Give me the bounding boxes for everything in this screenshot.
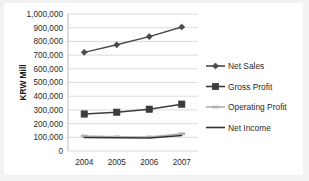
x-tick-label: 2004: [75, 158, 94, 167]
x-axis-tick-labels: 2004200520062007: [75, 158, 191, 167]
series-gross-profit: [81, 101, 185, 117]
y-axis-title: KRW Mill: [18, 64, 28, 100]
y-tick-label: 500,000: [33, 78, 63, 87]
data-point-marker: [179, 101, 185, 107]
legend-label: Net Income: [228, 123, 271, 133]
legend-label: Net Sales: [228, 61, 264, 71]
series-line: [84, 27, 182, 52]
line-chart-svg: 0100,000200,000300,000400,000500,000600,…: [4, 3, 303, 175]
y-tick-label: 600,000: [33, 65, 63, 74]
data-point-marker: [81, 111, 87, 117]
data-point-marker: [146, 34, 152, 40]
y-tick-label: 900,000: [33, 24, 63, 33]
y-axis-title-text: KRW Mill: [18, 64, 28, 100]
x-tick-label: 2006: [140, 158, 159, 167]
legend-item-net-income[interactable]: Net Income: [206, 123, 271, 133]
series-line: [84, 104, 182, 114]
series-net-sales: [81, 24, 185, 56]
legend-item-net-sales[interactable]: Net Sales: [206, 61, 264, 71]
y-tick-label: 100,000: [33, 133, 63, 142]
data-point-marker: [81, 49, 87, 55]
x-tick-label: 2007: [173, 158, 192, 167]
y-tick-label: 300,000: [33, 106, 63, 115]
chart-card: 0100,000200,000300,000400,000500,000600,…: [4, 3, 303, 175]
x-tick-label: 2005: [108, 158, 127, 167]
y-tick-label: 400,000: [33, 92, 63, 101]
data-point-marker: [114, 42, 120, 48]
data-point-marker: [179, 24, 185, 30]
legend-item-gross-profit[interactable]: Gross Profit: [206, 82, 273, 92]
legend: Net SalesGross ProfitOperating ProfitNet…: [206, 61, 287, 133]
data-point-marker: [114, 109, 120, 115]
legend-label: Operating Profit: [228, 102, 287, 112]
y-tick-label: 200,000: [33, 120, 63, 129]
y-tick-label: 800,000: [33, 37, 63, 46]
chart-container: 0100,000200,000300,000400,000500,000600,…: [0, 0, 309, 181]
gridlines-group: [68, 14, 198, 151]
legend-label: Gross Profit: [228, 82, 273, 92]
legend-marker: [212, 83, 218, 89]
legend-item-operating-profit[interactable]: Operating Profit: [206, 102, 287, 112]
data-point-marker: [146, 106, 152, 112]
legend-marker: [212, 63, 218, 69]
y-tick-label: 700,000: [33, 51, 63, 60]
y-axis-tick-labels: 0100,000200,000300,000400,000500,000600,…: [27, 10, 64, 156]
y-tick-label: 1,000,000: [27, 10, 64, 19]
y-tick-label: 0: [58, 147, 63, 156]
